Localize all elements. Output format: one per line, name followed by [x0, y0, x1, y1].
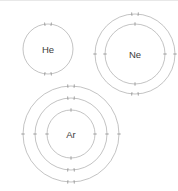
atom-symbol-label: He	[42, 44, 54, 55]
atom-diagram-he: He	[23, 23, 73, 76]
atom-symbol-label: Ne	[129, 49, 141, 60]
atom-symbol-label: Ar	[66, 129, 76, 140]
atom-diagrams-canvas: He Ne Ar	[0, 0, 178, 191]
atom-diagram-ne: Ne	[93, 12, 176, 95]
atom-diagram-ar: Ar	[21, 84, 120, 183]
noble-gas-shell-diagram: He Ne Ar	[0, 0, 178, 191]
